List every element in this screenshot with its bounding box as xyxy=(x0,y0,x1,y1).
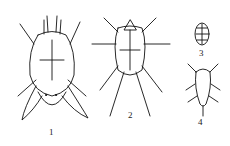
mite-figure-1 xyxy=(18,16,88,120)
panel-label-4: 4 xyxy=(198,117,203,127)
panel-label-3: 3 xyxy=(199,48,204,58)
panel-label-1: 1 xyxy=(49,127,54,137)
egg-figure-3 xyxy=(195,23,209,45)
panel-label-2: 2 xyxy=(128,110,133,120)
mite-diagram xyxy=(0,0,230,146)
mite-figure-2 xyxy=(92,18,170,116)
larva-figure-4 xyxy=(186,64,220,116)
